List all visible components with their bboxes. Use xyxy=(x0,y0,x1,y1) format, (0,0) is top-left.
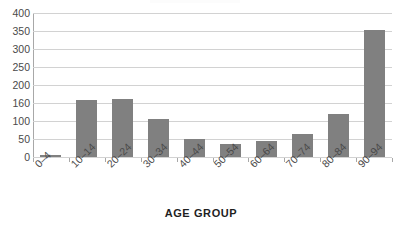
x-axis-title: AGE GROUP xyxy=(0,207,402,219)
gridline xyxy=(33,13,392,14)
bar-chart-figure: 050100160200250300350400 0–410–1420–2430… xyxy=(0,0,402,228)
y-axis-tick-label: 400 xyxy=(2,8,30,18)
y-axis-tick-label: 0 xyxy=(2,152,30,162)
x-axis-tick-mark xyxy=(392,158,393,162)
gridline xyxy=(33,85,392,86)
bar xyxy=(364,30,385,157)
plot-area xyxy=(33,13,392,157)
y-axis-tick-label: 50 xyxy=(2,134,30,144)
y-axis-tick-labels: 050100160200250300350400 xyxy=(0,0,30,228)
gridline xyxy=(33,49,392,50)
y-axis-tick-label: 250 xyxy=(2,62,30,72)
clipped-title-remnant xyxy=(150,0,240,3)
y-axis-tick-label: 160 xyxy=(2,98,30,108)
y-axis-tick-label: 300 xyxy=(2,44,30,54)
y-axis-tick-label: 200 xyxy=(2,80,30,90)
y-axis-tick-label: 100 xyxy=(2,116,30,126)
y-axis-tick-label: 350 xyxy=(2,26,30,36)
gridline xyxy=(33,31,392,32)
gridline xyxy=(33,67,392,68)
